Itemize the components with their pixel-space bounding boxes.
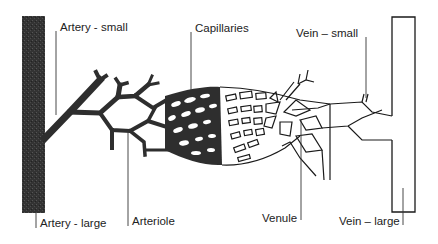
blood-vessel-diagram: Artery - small Capillaries Vein – small … [0,0,438,244]
arterial-tree [45,72,175,155]
label-vein-large: Vein – large [339,216,400,228]
label-artery-small: Artery - small [60,22,128,34]
label-venule: Venule [262,213,297,225]
vein-large-shape [392,17,415,212]
capillary-mesh-arterial [165,87,222,165]
label-vein-small: Vein – small [296,28,358,40]
artery-large-shape [22,16,45,213]
vessel-drawing [0,0,438,244]
label-artery-large: Artery - large [40,218,106,230]
label-arteriole: Arteriole [132,216,175,228]
label-capillaries: Capillaries [195,23,249,35]
